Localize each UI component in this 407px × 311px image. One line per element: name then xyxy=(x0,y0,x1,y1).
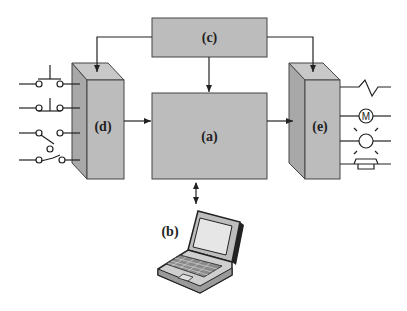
motor-icon: M xyxy=(340,109,391,123)
input-devices xyxy=(19,65,80,163)
switch-normally-open-icon xyxy=(19,130,80,152)
block-c: (c) xyxy=(152,18,267,57)
block-b-label: (b) xyxy=(161,224,178,240)
horn-icon xyxy=(340,159,391,169)
block-d: (d) xyxy=(72,63,124,179)
block-e-label: (e) xyxy=(312,119,328,135)
motor-label: M xyxy=(362,111,370,122)
block-a: (a) xyxy=(152,93,267,179)
block-a-label: (a) xyxy=(201,129,218,145)
plc-block-diagram: (c) (a) (d) (e) xyxy=(0,0,407,311)
block-c-label: (c) xyxy=(202,30,218,46)
block-e: (e) xyxy=(289,63,340,179)
laptop-computer: (b) xyxy=(158,211,244,293)
resistor-load-icon xyxy=(340,80,391,96)
block-d-label: (d) xyxy=(94,119,111,135)
pushbutton-normally-closed-icon xyxy=(19,98,80,111)
lamp-icon xyxy=(340,128,391,154)
switch-normally-closed-icon xyxy=(19,155,80,163)
output-devices: M xyxy=(340,80,391,169)
pushbutton-normally-open-icon xyxy=(19,65,80,87)
